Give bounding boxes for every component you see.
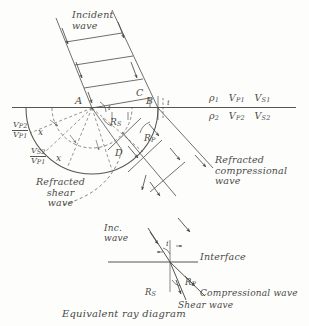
ray-diagram-angle-ticks (157, 246, 182, 286)
construction-radii (30, 108, 143, 170)
radius-label-shear: VS2 VP1 (30, 147, 46, 166)
incident-wave-label: Incident wave (72, 10, 113, 31)
refracted-compressional-wave-label: Refracted compressional wave (215, 155, 287, 187)
ray-diagram-shear-wave-label: Shear wave (178, 300, 233, 310)
radius-label-compressional: VP2 VP1 (12, 121, 28, 140)
refracted-shear-wave-label: Refracted shear wave (36, 177, 85, 209)
radius-label-compressional-times: x (38, 127, 43, 137)
point-label-d: D (115, 148, 123, 159)
figure-caption: Equivalent ray diagram (62, 308, 186, 319)
ray-diagram-compressional-wave-label: Compressional wave (200, 288, 298, 298)
angle-incident-label: i (108, 104, 111, 113)
ray-diagram-incident-angle: i (166, 240, 169, 249)
medium-upper-properties: ρ1 VP1 VS1 (209, 93, 271, 104)
angle-refracted-compressional-label: RP (144, 133, 156, 144)
point-label-a: A (75, 95, 82, 106)
angle-refracted-shear-label: RS (110, 117, 122, 128)
radius-label-shear-times: x (56, 153, 61, 163)
ray-diagram-shear-angle: RS (145, 288, 156, 298)
ray-diagram-interface-label: Interface (198, 252, 248, 263)
refracted-compressional-beam (108, 108, 213, 196)
incident-direction-arrows (62, 22, 137, 103)
ray-diagram-compressional-angle: RP (185, 278, 196, 288)
medium-lower-properties: ρ2 VP2 VS2 (209, 111, 271, 122)
angle-incident-label-b: i (167, 99, 170, 108)
ray-diagram-rays (148, 228, 205, 300)
point-label-b: B (146, 96, 153, 107)
shear-wave-arrow (142, 175, 146, 190)
ray-diagram-incident-label: Inc. wave (104, 223, 128, 243)
point-label-c: C (136, 88, 143, 99)
